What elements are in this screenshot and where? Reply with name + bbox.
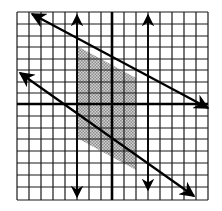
graph-canvas: [0, 0, 222, 211]
inequality-graph: [0, 0, 222, 211]
